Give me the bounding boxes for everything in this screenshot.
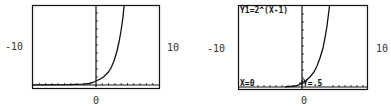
graph-2-plot: Y1=2^(X-1) X=0 Y=.5	[195, 0, 391, 106]
graph-1-plot	[0, 0, 195, 106]
trace-x-value: X=0	[240, 79, 255, 88]
trace-y-value: Y=.5	[303, 79, 322, 88]
graph-panel-1: -10 10 0	[0, 0, 195, 106]
graph-panel-2: -10 10 0 Y1=2^(X-1) X=0 Y=.5	[195, 0, 391, 106]
equation-label: Y1=2^(X-1)	[240, 6, 288, 15]
